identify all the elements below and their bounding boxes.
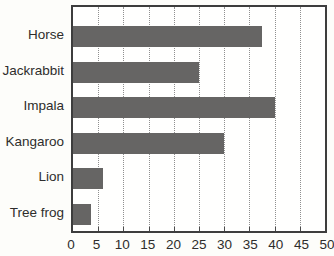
- x-tick-label-20: 20: [166, 237, 181, 252]
- bar-impala: [73, 97, 275, 118]
- category-label-jackrabbit: Jackrabbit: [0, 60, 64, 81]
- x-tick-label-10: 10: [115, 237, 130, 252]
- tick-mark-15: [149, 227, 150, 231]
- bar-horse: [73, 26, 262, 47]
- tick-mark-10: [123, 227, 124, 231]
- category-label-tree-frog: Tree frog: [0, 202, 64, 223]
- x-tick-label-25: 25: [191, 237, 206, 252]
- x-tick-label-40: 40: [268, 237, 283, 252]
- x-tick-label-35: 35: [243, 237, 258, 252]
- category-label-impala: Impala: [0, 95, 64, 116]
- category-label-horse: Horse: [0, 24, 64, 45]
- bar-kangaroo: [73, 133, 224, 154]
- plot-area: [71, 5, 327, 233]
- tick-mark-25: [199, 227, 200, 231]
- x-tick-label-50: 50: [319, 237, 334, 252]
- bar-lion: [73, 168, 103, 189]
- bar-jackrabbit: [73, 62, 199, 83]
- tick-mark-35: [249, 227, 250, 231]
- gridline-45: [300, 7, 301, 231]
- tick-mark-20: [174, 227, 175, 231]
- tick-mark-40: [275, 227, 276, 231]
- category-label-lion: Lion: [0, 166, 64, 187]
- category-label-kangaroo: Kangaroo: [0, 131, 64, 152]
- tick-mark-30: [224, 227, 225, 231]
- x-axis-tick-labels: 05101520253035404550: [71, 237, 327, 253]
- x-tick-label-45: 45: [294, 237, 309, 252]
- tick-mark-5: [98, 227, 99, 231]
- x-tick-label-15: 15: [140, 237, 155, 252]
- tick-mark-45: [300, 227, 301, 231]
- bar-chart: HorseJackrabbitImpalaKangarooLionTree fr…: [0, 0, 334, 256]
- x-tick-label-30: 30: [217, 237, 232, 252]
- x-tick-label-5: 5: [93, 237, 101, 252]
- x-tick-label-0: 0: [67, 237, 75, 252]
- bar-tree-frog: [73, 204, 91, 225]
- gridline-40: [275, 7, 276, 231]
